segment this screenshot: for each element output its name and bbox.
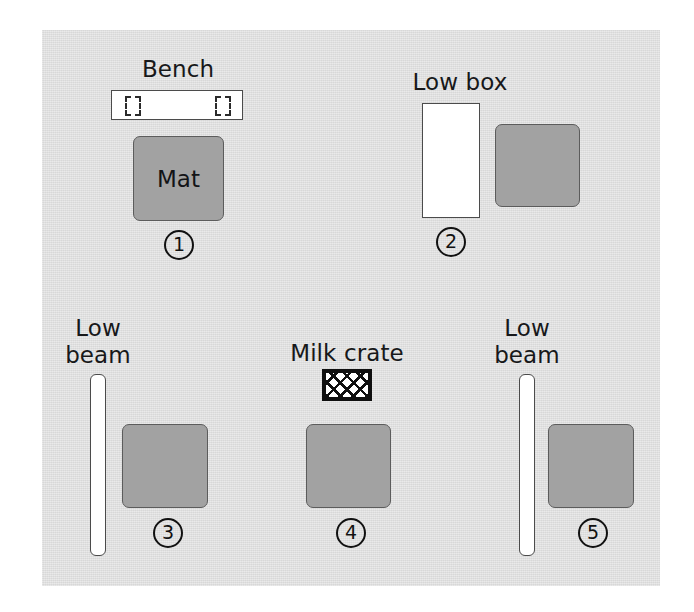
station-3-low-beam xyxy=(90,374,106,556)
station-5-mat xyxy=(548,424,634,508)
bench-shape xyxy=(111,90,243,120)
bench-leg-left xyxy=(125,96,141,116)
station-3-equipment-label: Low beam xyxy=(48,315,148,369)
milk-crate-lattice-pattern xyxy=(326,373,368,397)
station-4-mat xyxy=(306,424,391,508)
milk-crate-shape xyxy=(322,369,372,401)
obstacle-course-diagram: Bench Mat 1 Low box 2 Low beam 3 Milk cr… xyxy=(0,0,694,612)
bench-leg-right xyxy=(215,96,231,116)
station-4-equipment-label: Milk crate xyxy=(277,340,417,367)
station-1-mat-label: Mat xyxy=(134,166,223,192)
station-5-equipment-label: Low beam xyxy=(477,315,577,369)
station-1-equipment-label: Bench xyxy=(108,56,248,83)
station-2-number: 2 xyxy=(436,227,466,257)
station-1-mat: Mat xyxy=(133,136,224,221)
station-2-equipment-label: Low box xyxy=(390,69,530,96)
station-5-low-beam xyxy=(519,374,535,556)
station-4-number: 4 xyxy=(336,518,366,548)
low-box-shape xyxy=(422,103,480,218)
station-3-mat xyxy=(122,424,208,508)
station-5-number: 5 xyxy=(578,518,608,548)
station-3-number: 3 xyxy=(153,518,183,548)
station-2-mat xyxy=(495,124,580,207)
station-1-number: 1 xyxy=(164,230,194,260)
